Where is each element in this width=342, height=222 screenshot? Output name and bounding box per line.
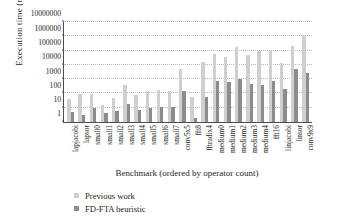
x-tick: medium4: [254, 124, 265, 168]
bar: [272, 81, 275, 122]
bar-group: [188, 22, 199, 122]
x-tick: conv9x9: [299, 124, 310, 168]
bar: [194, 118, 197, 122]
bar-group: [99, 22, 110, 122]
y-tick-label: 100000: [38, 39, 61, 47]
bar: [138, 110, 141, 122]
y-tick-label: 10: [53, 96, 61, 104]
legend-item[interactable]: Previous work: [74, 189, 146, 202]
bar: [82, 115, 85, 122]
x-tick: lapsor: [75, 124, 86, 168]
chart-legend: Previous workFD-FTA heuristic: [74, 189, 146, 215]
x-tick: fft8: [187, 124, 198, 168]
bar-group: [76, 22, 87, 122]
bar-group: [121, 22, 132, 122]
x-tick: fftradix4: [198, 124, 209, 168]
x-tick: small2: [109, 124, 120, 168]
x-tick-label: conv9x9: [307, 125, 314, 150]
legend-label: FD-FTA heuristic: [85, 204, 146, 214]
x-tick: small0: [86, 124, 97, 168]
bar: [238, 79, 241, 122]
bar-group: [132, 22, 143, 122]
y-tick-label: 10000000: [31, 11, 61, 19]
bar: [227, 82, 230, 122]
y-tick-label: 1: [57, 111, 61, 119]
y-tick-label: 1000000: [34, 25, 61, 33]
bar-group: [87, 22, 98, 122]
x-tick: small3: [120, 124, 131, 168]
bar-group: [210, 22, 221, 122]
y-tick-label: 1000: [46, 68, 61, 76]
legend-swatch: [74, 206, 79, 211]
bar-group: [278, 22, 289, 122]
bar: [205, 97, 208, 122]
bar-group: [199, 22, 210, 122]
x-tick: small5: [142, 124, 153, 168]
x-axis-title: Benchmark (ordered by operator count): [63, 168, 311, 178]
bar: [216, 81, 219, 122]
y-axis-title: Execution time (ms): [14, 0, 24, 82]
bar-group: [166, 22, 177, 122]
bar-group: [65, 22, 76, 122]
x-tick: small6: [154, 124, 165, 168]
x-tick: medium2: [232, 124, 243, 168]
legend-swatch: [74, 193, 79, 198]
bar: [171, 107, 174, 122]
bar: [306, 73, 309, 122]
x-tick: conv5x5: [176, 124, 187, 168]
plot-area: 110100100010000100000100000010000000: [63, 22, 312, 123]
bar-group: [244, 22, 255, 122]
x-tick: lapjacobi: [64, 124, 75, 168]
bar: [115, 111, 118, 122]
x-tick: small7: [165, 124, 176, 168]
x-tick: fft16: [265, 124, 276, 168]
bar-group: [233, 22, 244, 122]
bar-group: [222, 22, 233, 122]
bar: [127, 104, 130, 122]
x-axis-ticks: lapjacobilapsorsmall0small1small2small3s…: [63, 124, 311, 168]
bar: [93, 108, 96, 122]
bar-group: [300, 22, 311, 122]
x-tick: small4: [131, 124, 142, 168]
x-tick: medium3: [243, 124, 254, 168]
bar-group: [266, 22, 277, 122]
bar-group: [110, 22, 121, 122]
bar: [283, 89, 286, 122]
x-tick: medium0: [209, 124, 220, 168]
bar-groups: [64, 22, 312, 122]
x-tick: linsor: [288, 124, 299, 168]
bar-group: [177, 22, 188, 122]
x-tick: small1: [98, 124, 109, 168]
bar: [250, 84, 253, 122]
x-tick: linjacobi: [277, 124, 288, 168]
chart-figure: Execution time (ms) 11010010001000010000…: [0, 0, 342, 222]
bar: [149, 108, 152, 122]
bar-group: [289, 22, 300, 122]
legend-label: Previous work: [85, 191, 135, 201]
bar-group: [143, 22, 154, 122]
bar: [294, 69, 297, 122]
bar-group: [255, 22, 266, 122]
bar: [182, 91, 185, 122]
legend-item[interactable]: FD-FTA heuristic: [74, 202, 146, 215]
y-tick-label: 100: [50, 82, 61, 90]
bar: [104, 113, 107, 122]
bar: [261, 85, 264, 122]
x-tick: medium1: [221, 124, 232, 168]
bar-group: [155, 22, 166, 122]
y-tick-label: 10000: [42, 53, 61, 61]
bar: [71, 112, 74, 122]
bar: [160, 107, 163, 122]
